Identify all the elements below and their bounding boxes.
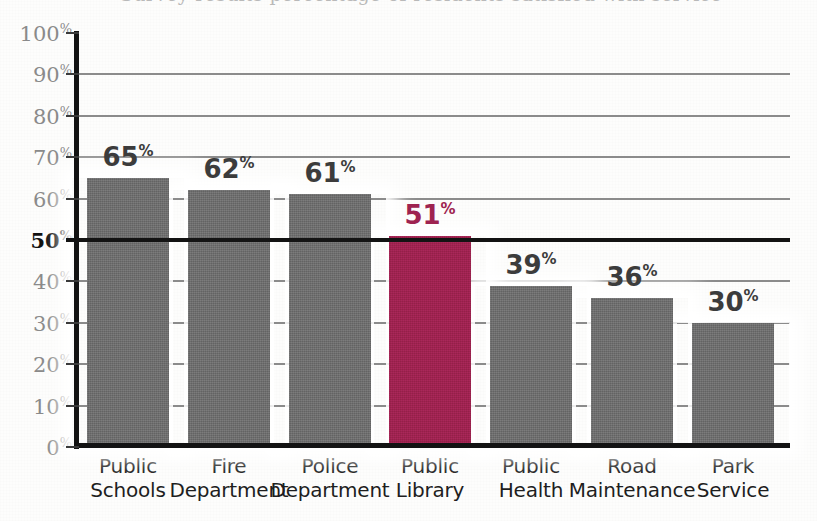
bar-public-schools[interactable] bbox=[87, 178, 169, 447]
value-label-police-department: 61% bbox=[270, 160, 390, 186]
gridline-80 bbox=[78, 115, 790, 117]
gridline-90 bbox=[78, 73, 790, 75]
bar-police-department[interactable] bbox=[289, 194, 371, 447]
value-label-road-maintenance: 36% bbox=[572, 264, 692, 290]
y-tick-90 bbox=[66, 73, 79, 75]
bar-park-service[interactable] bbox=[692, 323, 774, 447]
reference-line-50 bbox=[78, 238, 790, 242]
bar-public-health[interactable] bbox=[490, 286, 572, 447]
y-tick-100 bbox=[66, 32, 79, 34]
y-tick-0 bbox=[66, 446, 79, 448]
y-tick-40 bbox=[66, 280, 79, 282]
y-tick-label-30: 30% bbox=[0, 312, 72, 335]
value-label-public-library: 51% bbox=[370, 202, 490, 228]
y-tick-60 bbox=[66, 198, 79, 200]
y-tick-label-20: 20% bbox=[0, 353, 72, 376]
category-label-park-service: ParkService bbox=[665, 455, 801, 502]
bar-fire-department[interactable] bbox=[188, 190, 270, 447]
y-tick-80 bbox=[66, 115, 79, 117]
y-tick-70 bbox=[66, 156, 79, 158]
y-tick-label-80: 80% bbox=[0, 105, 72, 128]
bar-chart: Survey results percentage of residents s… bbox=[0, 0, 817, 521]
y-tick-30 bbox=[66, 322, 79, 324]
bar-public-library[interactable] bbox=[389, 236, 471, 447]
y-tick-50 bbox=[66, 238, 79, 242]
y-tick-label-10: 10% bbox=[0, 395, 72, 418]
y-tick-label-100: 100% bbox=[0, 22, 72, 45]
y-tick-label-40: 40% bbox=[0, 270, 72, 293]
y-tick-label-60: 60% bbox=[0, 188, 72, 211]
y-tick-label-70: 70% bbox=[0, 146, 72, 169]
plot-area: 0%10%20%30%40%50%60%70%80%90%100% 65%62%… bbox=[0, 0, 817, 521]
y-tick-20 bbox=[66, 363, 79, 365]
x-axis-line bbox=[74, 443, 790, 448]
value-label-park-service: 30% bbox=[673, 289, 793, 315]
y-tick-label-90: 90% bbox=[0, 63, 72, 86]
bar-road-maintenance[interactable] bbox=[591, 298, 673, 447]
y-tick-label-50: 50% bbox=[0, 229, 72, 251]
y-tick-10 bbox=[66, 405, 79, 407]
